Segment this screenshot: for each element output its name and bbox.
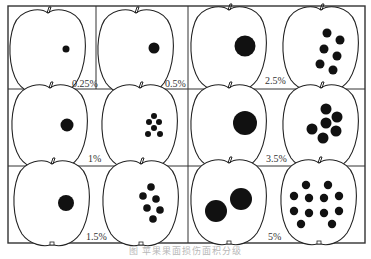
cell-5-percent-multi: [281, 157, 356, 245]
label-2-5: 2.5%: [265, 75, 286, 86]
cell-5-percent-single: [191, 157, 266, 245]
label-0-25: 0.25%: [72, 78, 98, 89]
cell-0-5-percent: [98, 7, 173, 95]
cell-1-5-percent-multi: [103, 158, 178, 246]
cell-2-5-percent-single: [191, 4, 266, 92]
figure-caption: 图 苹果果面损伤面积分级: [0, 244, 371, 257]
cell-1-percent-single: [12, 82, 87, 170]
label-0-5: 0.5%: [165, 78, 186, 89]
label-1-5: 1.5%: [86, 231, 107, 242]
label-3-5: 3.5%: [266, 153, 287, 164]
cell-1-percent-multi: [102, 82, 177, 170]
cell-1-5-percent-single: [14, 158, 89, 246]
apple-damage-grading-figure: 0.25% 0.5% 2.5% 1% 3.5% 1.5% 5%: [0, 0, 371, 259]
cell-2-5-percent-multi: [283, 4, 358, 92]
label-1: 1%: [88, 153, 101, 164]
cell-3-5-percent-single: [191, 82, 266, 170]
label-5: 5%: [268, 231, 281, 242]
